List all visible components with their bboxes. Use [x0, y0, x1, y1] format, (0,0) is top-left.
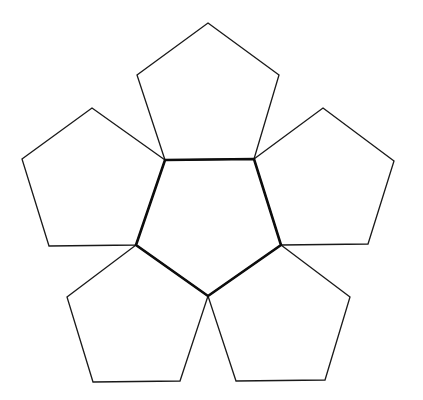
outer-pentagons — [22, 23, 394, 382]
pentagon-center — [136, 159, 281, 296]
pentagon-bottom-right — [208, 245, 350, 381]
pentagon-top — [137, 23, 279, 160]
diagram-canvas — [0, 0, 423, 400]
pentagon-bottom-left — [67, 245, 208, 382]
pentagon-net-diagram — [0, 0, 423, 400]
